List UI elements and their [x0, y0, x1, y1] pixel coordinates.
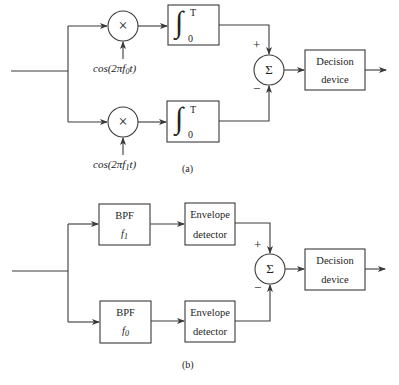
multiply-icon-top: ×: [115, 18, 131, 34]
integral-upper-bottom: T: [190, 105, 196, 115]
caption-a: (a): [182, 164, 193, 174]
bottom-envelope-label: Envelope detector: [185, 303, 235, 341]
integral-lower-bottom: 0: [188, 130, 193, 140]
integral-icon-bottom: ∫: [175, 103, 183, 133]
freq-sub: 1: [124, 232, 128, 241]
bottom-envelope-to-summer: [235, 285, 270, 321]
bpf-text: BPF: [115, 210, 134, 221]
decision-line1: Decision: [316, 255, 353, 266]
carrier-label-top: cos(2πf0t): [93, 63, 136, 76]
decision-line2: device: [321, 274, 348, 285]
top-envelope-label: Envelope detector: [185, 205, 235, 244]
sigma-icon-b: Σ: [262, 262, 278, 275]
decision-line2: device: [321, 74, 348, 85]
minus-sign-a: −: [253, 82, 260, 95]
envelope-line1: Envelope: [190, 307, 230, 318]
carrier-suffix: t): [129, 158, 136, 170]
plus-sign-a: +: [253, 38, 260, 51]
plus-sign-b: +: [254, 238, 261, 251]
bottom-integrator-to-summer: [219, 86, 269, 121]
top-bpf-label: BPF f1: [99, 206, 150, 244]
top-integrator-to-summer: [219, 25, 269, 54]
carrier-suffix: t): [129, 62, 136, 74]
decision-line1: Decision: [316, 56, 353, 67]
envelope-line2: detector: [193, 326, 227, 337]
bpf-freq: f0: [122, 325, 129, 338]
integral-icon-top: ∫: [175, 7, 183, 37]
multiply-icon-bottom: ×: [115, 114, 131, 130]
envelope-line1: Envelope: [190, 209, 230, 220]
integral-upper-top: T: [190, 8, 196, 18]
carrier-label-bottom: cos(2πf1t): [93, 159, 136, 172]
decision-label-b: Decision device: [305, 251, 365, 289]
envelope-line2: detector: [193, 229, 227, 240]
decision-label-a: Decision device: [305, 52, 365, 89]
freq-sub: 0: [125, 329, 129, 338]
integral-lower-top: 0: [188, 34, 193, 44]
top-envelope-to-summer: [235, 223, 270, 253]
sigma-icon-a: Σ: [261, 63, 277, 76]
caption-b: (b): [182, 360, 194, 370]
bpf-text: BPF: [116, 307, 135, 318]
bpf-freq: f1: [121, 228, 128, 241]
bottom-bpf-label: BPF f0: [100, 303, 151, 342]
minus-sign-b: −: [254, 281, 261, 294]
carrier-prefix: cos(2π: [93, 62, 122, 74]
carrier-prefix: cos(2π: [93, 158, 122, 170]
